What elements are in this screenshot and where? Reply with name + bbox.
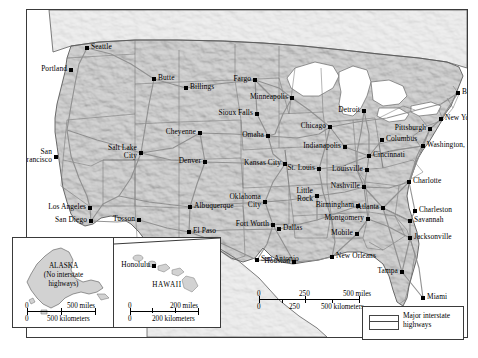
alaska-scale-miles-500: 500 miles [67,302,95,310]
city-dot [421,144,425,148]
city-label: Omaha [242,131,264,139]
alaska-note-line1: (No interstate [13,271,114,279]
main-scale-km-250: 250 [289,303,300,311]
city-dot [292,260,296,264]
city-dot [271,223,275,227]
hawaii-inset[interactable]: Honolulu HAWAII 0 200 miles 0 200 kilome… [113,237,221,328]
city-dot [381,206,385,210]
city-label: Washington, D.C. [427,141,468,149]
city-dot [184,86,188,90]
city-dot [137,218,141,222]
alaska-inset[interactable]: ALASKA (No interstate highways) 0 500 mi… [12,237,115,328]
city-label: Louisville [332,165,363,173]
city-label: Jacksonville [414,233,452,241]
city-dot [69,68,73,72]
city-dot [365,168,369,172]
city-dot [266,134,270,138]
city-dot [255,258,259,262]
city-dot [198,131,202,135]
city-dot [400,270,404,274]
city-dot [187,230,191,234]
city-label: Butte [158,74,175,82]
interstate-highway-symbol-icon [369,315,399,330]
city-label: Sioux Falls [218,109,253,117]
city-label: Kansas City [244,159,281,167]
main-scale-km-500: 500 kilometers [321,303,364,311]
map-legend[interactable]: Major interstate highways [362,306,464,340]
city-label: St. Louis [287,164,315,172]
city-dot [203,160,207,164]
hawaii-scale-km-200: 200 kilometers [152,315,195,323]
city-dot [328,125,332,129]
city-dot [290,96,294,100]
city-label: Portland [41,65,67,73]
city-label: San Diego [55,216,87,224]
city-dot [343,145,347,149]
city-label: Billings [190,83,214,91]
city-dot [88,206,92,210]
city-label: New Orleans [336,252,376,260]
city-dot [439,117,443,121]
city-label: Fort Worth [236,220,269,228]
city-label: Tucson [113,215,135,223]
city-dot [188,205,192,209]
city-label: El Paso [193,227,216,235]
city-dot [315,194,319,198]
city-label: Salt LakeCity [108,144,137,159]
city-label: Albuquerque [194,202,234,210]
legend-label-line2: highways [403,321,450,330]
city-label: New York [445,114,468,122]
city-dot [362,109,366,113]
city-label: Tampa [377,267,398,275]
city-dot [355,232,359,236]
map-page: SeattlePortlandButteBillingsFargoMinneap… [0,0,478,358]
alaska-scale-km-500: 500 kilometers [47,315,90,323]
city-dot [89,219,93,223]
city-dot [253,78,257,82]
city-dot [428,127,432,131]
city-label: Montgomery [324,214,364,222]
city-label: Houston [264,257,290,265]
city-dot [421,296,425,300]
city-label: Nashville [331,182,360,190]
city-label: Atlanta [357,203,379,211]
city-label: Fargo [233,75,251,83]
city-dot [255,112,259,116]
city-dot [283,162,287,166]
city-dot [330,255,334,259]
city-label: Mobile [331,229,353,237]
city-label: Miami [427,293,447,301]
city-label: Cheyenne [166,128,196,136]
city-label: Pittsburgh [395,124,426,132]
city-label: SanFrancisco [26,148,52,163]
city-label: Charleston [419,206,452,214]
city-label: Boston [462,88,468,96]
city-dot [366,217,370,221]
hawaii-scale-km-0: 0 [128,315,132,323]
city-dot [152,77,156,81]
alaska-scale-km-0: 0 [25,315,29,323]
city-dot [408,219,412,223]
city-label: Detroit [338,106,360,114]
city-dot [54,155,58,159]
main-scale-miles-500: 500 miles [343,290,371,298]
city-dot [85,46,89,50]
city-dot [367,154,371,158]
city-label: Seattle [91,43,112,51]
city-dot [362,185,366,189]
city-label: Savannah [414,216,444,224]
city-label: Dallas [283,224,302,232]
city-label: Charlotte [413,177,441,185]
city-dot [380,138,384,142]
city-dot [407,180,411,184]
city-label: Indianapolis [303,142,341,150]
city-dot [139,151,143,155]
city-label: Birmingham [316,201,354,209]
city-label: Chicago [301,122,326,130]
alaska-title: ALASKA [13,262,114,270]
city-label: Denver [179,157,201,165]
city-dot [413,209,417,213]
main-scale-km-0: 0 [257,303,261,311]
alaska-note-line2: highways) [13,280,114,288]
city-dot [408,236,412,240]
